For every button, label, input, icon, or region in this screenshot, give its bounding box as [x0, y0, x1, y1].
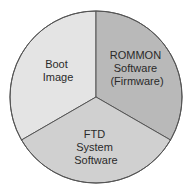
label-boot-image: Boot Image [43, 58, 74, 83]
label-rommon: ROMMON Software (Firmware) [110, 49, 164, 87]
pie-diagram: Boot Image ROMMON Software (Firmware) FT… [0, 0, 191, 189]
